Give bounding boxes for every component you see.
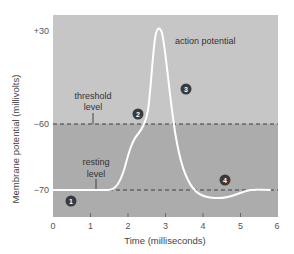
x-axis-title: Time (milliseconds) — [124, 235, 205, 246]
x-tick-6: 6 — [274, 221, 279, 231]
svg-text:1: 1 — [69, 198, 73, 205]
svg-text:4: 4 — [223, 177, 227, 184]
step-badge-3: 3 — [181, 84, 192, 95]
y-axis-title: Membrane potential (millivolts) — [10, 75, 21, 204]
threshold-label-line2: level — [84, 102, 103, 112]
action-potential-label: action potential — [175, 36, 236, 46]
x-tick-2: 2 — [125, 221, 130, 231]
x-axis-tick-labels: 0 1 2 3 4 5 6 — [50, 221, 279, 231]
x-tick-0: 0 — [50, 221, 55, 231]
threshold-label-line1: threshold — [74, 91, 111, 101]
resting-label-line2: level — [87, 169, 106, 179]
step-badge-2: 2 — [133, 109, 144, 120]
y-label-plus30: +30 — [34, 26, 49, 36]
x-tick-4: 4 — [200, 221, 205, 231]
x-tick-5: 5 — [238, 221, 243, 231]
svg-text:2: 2 — [136, 111, 140, 118]
resting-label-line1: resting — [82, 157, 109, 167]
x-tick-3: 3 — [163, 221, 168, 231]
x-tick-1: 1 — [88, 221, 93, 231]
step-badge-1: 1 — [66, 196, 77, 207]
action-potential-diagram: 0 1 2 3 4 5 6 +30 −60 −70 Time (millisec… — [0, 0, 294, 254]
step-badge-4: 4 — [220, 175, 231, 186]
y-label-minus70: −70 — [34, 185, 49, 195]
svg-text:3: 3 — [184, 86, 188, 93]
y-label-minus60: −60 — [34, 119, 49, 129]
